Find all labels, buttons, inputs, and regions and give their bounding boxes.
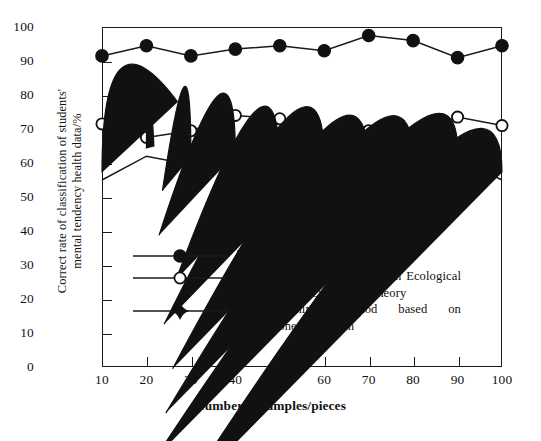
legend-marker-icon (172, 303, 187, 318)
data-point (496, 120, 507, 131)
legend-label-line: Data Mining Method Based on Ecological (237, 268, 461, 285)
chart-figure: Correct rate of classification of studen… (0, 0, 541, 441)
legend: The method of this paperData Mining Meth… (131, 246, 461, 334)
data-point (362, 29, 374, 41)
legend-label-line: Instantaneous Evaluation Theory (237, 285, 461, 302)
x-axis-label: Number of samples/pieces (0, 398, 541, 414)
data-point (407, 34, 419, 46)
series-line (102, 36, 502, 58)
data-series-layer (0, 0, 541, 441)
legend-label-line: Data mining method based on (237, 301, 461, 318)
data-point (185, 50, 197, 62)
legend-marker-icon (174, 272, 185, 283)
legend-item: Data Mining Method Based on EcologicalIn… (131, 268, 461, 301)
data-point (274, 40, 286, 52)
legend-marker-filled-circle (131, 246, 231, 266)
legend-label-line: smartphone perception (237, 318, 461, 335)
data-point (96, 50, 108, 62)
legend-item: Data mining method based onsmartphone pe… (131, 301, 461, 334)
legend-marker-icon (174, 250, 186, 262)
legend-sample-icon (131, 246, 231, 266)
legend-marker-filled-diamond (131, 301, 231, 321)
legend-item: The method of this paper (131, 246, 461, 268)
data-point (229, 43, 241, 55)
legend-sample-icon (131, 268, 231, 288)
data-point (452, 112, 463, 123)
data-point (451, 51, 463, 63)
legend-marker-open-circle (131, 268, 231, 288)
data-point (496, 40, 508, 52)
series-1 (96, 29, 508, 63)
data-point (102, 64, 178, 172)
data-point (318, 45, 330, 57)
legend-label-line: The method of this paper (237, 246, 461, 263)
legend-sample-icon (131, 301, 231, 321)
data-point (140, 40, 152, 52)
